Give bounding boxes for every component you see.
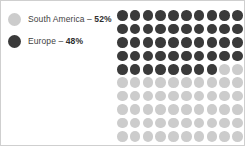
waffle-dot-south-america: [181, 104, 192, 115]
waffle-cell: [218, 89, 231, 102]
waffle-dot-south-america: [168, 131, 179, 142]
waffle-cell: [116, 22, 129, 35]
waffle-cell: [129, 76, 142, 89]
waffle-cell: [180, 103, 193, 116]
waffle-cell: [193, 9, 206, 22]
waffle-cell: [206, 76, 219, 89]
waffle-dot-europe: [130, 64, 141, 75]
waffle-dot-europe: [168, 64, 179, 75]
waffle-cell: [206, 9, 219, 22]
waffle-dot-south-america: [232, 91, 243, 102]
legend-value-south-america: 52%: [94, 14, 111, 24]
waffle-dot-europe: [155, 64, 166, 75]
waffle-cell: [129, 22, 142, 35]
waffle-cell: [231, 116, 244, 129]
waffle-cell: [167, 49, 180, 62]
waffle-dot-europe: [181, 37, 192, 48]
waffle-cell: [206, 116, 219, 129]
waffle-dot-south-america: [168, 118, 179, 129]
waffle-dot-south-america: [143, 118, 154, 129]
waffle-dot-south-america: [194, 118, 205, 129]
waffle-dot-south-america: [130, 131, 141, 142]
legend-label-europe: Europe – 48%: [28, 36, 83, 46]
waffle-dot-south-america: [181, 118, 192, 129]
waffle-cell: [167, 36, 180, 49]
waffle-chart-container: South America – 52% Europe – 48%: [0, 0, 245, 146]
legend-name-europe: Europe: [28, 36, 56, 46]
legend-item-south-america[interactable]: South America – 52%: [8, 10, 113, 28]
waffle-cell: [193, 36, 206, 49]
waffle-dot-south-america: [207, 91, 218, 102]
waffle-dot-south-america: [219, 77, 230, 88]
waffle-dot-south-america: [117, 131, 128, 142]
waffle-cell: [154, 130, 167, 143]
waffle-cell: [142, 76, 155, 89]
waffle-cell: [218, 116, 231, 129]
waffle-dot-south-america: [155, 131, 166, 142]
waffle-dot-south-america: [232, 104, 243, 115]
waffle-dot-south-america: [194, 77, 205, 88]
waffle-dot-south-america: [117, 118, 128, 129]
waffle-cell: [193, 116, 206, 129]
waffle-dot-south-america: [194, 131, 205, 142]
waffle-cell: [154, 76, 167, 89]
waffle-cell: [193, 63, 206, 76]
waffle-cell: [116, 116, 129, 129]
waffle-cell: [206, 22, 219, 35]
waffle-dot-grid: [116, 9, 244, 143]
waffle-cell: [142, 36, 155, 49]
waffle-dot-europe: [155, 10, 166, 21]
waffle-cell: [154, 116, 167, 129]
waffle-cell: [206, 103, 219, 116]
waffle-cell: [167, 9, 180, 22]
waffle-cell: [180, 116, 193, 129]
waffle-cell: [116, 63, 129, 76]
waffle-cell: [142, 130, 155, 143]
waffle-dot-europe: [168, 51, 179, 62]
waffle-dot-europe: [168, 37, 179, 48]
waffle-cell: [193, 130, 206, 143]
waffle-cell: [154, 22, 167, 35]
legend-item-europe[interactable]: Europe – 48%: [8, 32, 113, 50]
waffle-cell: [231, 76, 244, 89]
waffle-dot-europe: [232, 37, 243, 48]
waffle-dot-south-america: [207, 131, 218, 142]
legend-swatch-south-america-icon: [8, 13, 21, 26]
waffle-cell: [206, 49, 219, 62]
waffle-dot-europe: [232, 24, 243, 35]
waffle-dot-europe: [155, 51, 166, 62]
legend-name-south-america: South America: [28, 14, 85, 24]
waffle-cell: [154, 89, 167, 102]
waffle-dot-south-america: [117, 104, 128, 115]
waffle-dot-south-america: [143, 104, 154, 115]
waffle-dot-south-america: [219, 104, 230, 115]
waffle-dot-europe: [207, 64, 218, 75]
waffle-cell: [129, 89, 142, 102]
waffle-cell: [116, 9, 129, 22]
waffle-dot-europe: [130, 37, 141, 48]
waffle-cell: [142, 9, 155, 22]
waffle-dot-europe: [219, 10, 230, 21]
waffle-cell: [142, 63, 155, 76]
waffle-cell: [129, 49, 142, 62]
waffle-dot-europe: [181, 51, 192, 62]
waffle-cell: [129, 103, 142, 116]
waffle-dot-south-america: [194, 91, 205, 102]
waffle-cell: [129, 63, 142, 76]
waffle-cell: [154, 103, 167, 116]
waffle-cell: [231, 36, 244, 49]
waffle-dot-europe: [117, 10, 128, 21]
waffle-dot-south-america: [143, 91, 154, 102]
waffle-cell: [167, 130, 180, 143]
waffle-cell: [218, 63, 231, 76]
waffle-cell: [180, 49, 193, 62]
waffle-cell: [129, 116, 142, 129]
waffle-dot-south-america: [232, 118, 243, 129]
waffle-dot-europe: [181, 10, 192, 21]
legend-swatch-europe-icon: [8, 35, 21, 48]
waffle-dot-south-america: [117, 77, 128, 88]
waffle-dot-south-america: [194, 104, 205, 115]
waffle-cell: [193, 76, 206, 89]
waffle-dot-europe: [194, 37, 205, 48]
waffle-cell: [142, 103, 155, 116]
